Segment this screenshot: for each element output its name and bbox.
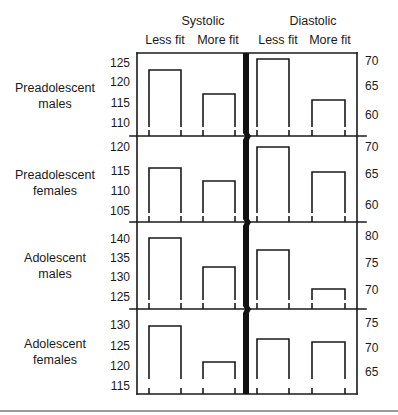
bar-prem-dia-less (257, 59, 289, 127)
column-divider (243, 53, 251, 394)
bar-pref-dia-less (257, 147, 289, 213)
bar-prem-sys-more (203, 94, 235, 127)
bar-adf-sys-less (149, 326, 181, 379)
bar-adf-dia-less (257, 339, 289, 379)
page-bottom-rule (0, 410, 398, 412)
bar-pref-sys-less (149, 168, 181, 213)
bar-prem-dia-more (312, 100, 345, 127)
bar-adf-dia-more (312, 342, 345, 379)
bar-adm-dia-less (257, 250, 289, 300)
bar-pref-dia-more (312, 172, 345, 213)
chart-plot-area (0, 0, 398, 415)
bar-adm-dia-more (312, 289, 345, 300)
bar-adm-sys-less (149, 238, 181, 300)
bar-pref-sys-more (203, 181, 235, 213)
bar-prem-sys-less (149, 70, 181, 127)
bar-adm-sys-more (203, 267, 235, 300)
bar-adf-sys-more (203, 362, 235, 379)
